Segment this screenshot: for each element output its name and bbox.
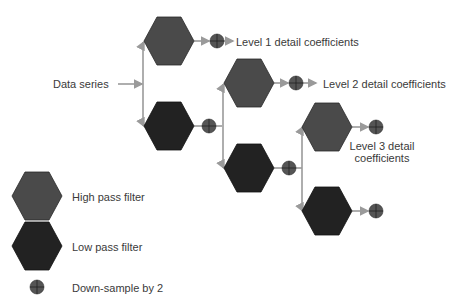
- downsample-icon-l2-low: [282, 161, 296, 175]
- legend-low-pass-icon: [12, 222, 62, 270]
- downsample-icon-l1-low: [202, 119, 216, 133]
- legend-downsample-icon: [30, 280, 44, 294]
- high-pass-filter-l2: [224, 59, 274, 107]
- level3-output-label-line2: coefficients: [340, 152, 424, 164]
- legend-high-pass-label: High pass filter: [72, 191, 145, 203]
- legend-high-pass-icon: [12, 172, 62, 220]
- input-label: Data series: [53, 78, 109, 90]
- low-pass-filter-l3: [302, 187, 352, 235]
- downsample-icon-l3-low: [369, 204, 383, 218]
- downsample-icon-l2-high: [289, 76, 303, 90]
- low-pass-filter-l2: [224, 144, 274, 192]
- level1-output-label: Level 1 detail coefficients: [236, 36, 359, 48]
- downsample-icon-l1-high: [210, 34, 224, 48]
- level2-output-label: Level 2 detail coefficients: [323, 78, 446, 90]
- legend-downsample-label: Down-sample by 2: [72, 282, 163, 294]
- level3-output-label-line1: Level 3 detail: [340, 140, 424, 152]
- legend-low-pass-label: Low pass filter: [72, 241, 142, 253]
- high-pass-filter-l1: [144, 17, 194, 65]
- low-pass-filter-l1: [144, 102, 194, 150]
- downsample-icon-l3-high: [369, 120, 383, 134]
